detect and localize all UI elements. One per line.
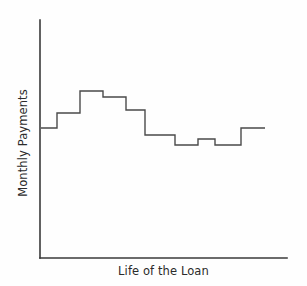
x-axis-label: Life of the Loan <box>40 264 287 278</box>
chart-container: Monthly Payments Life of the Loan <box>0 0 307 286</box>
monthly-payments-step-series <box>41 91 265 145</box>
step-chart-plot <box>0 0 307 286</box>
